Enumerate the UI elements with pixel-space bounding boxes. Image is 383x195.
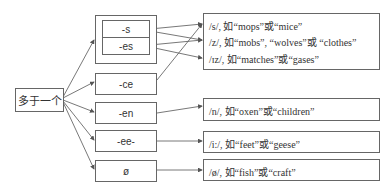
outcome-zero-box: /ø/, 如“fish”或“craft” (203, 159, 380, 181)
suffix-ee-node: -ee- (95, 130, 157, 152)
outcome-s-text: /s/, 如“mops”或“mice” (209, 18, 302, 33)
suffix-ce-node: -ce (95, 73, 157, 95)
suffix-es-label: -es (119, 41, 133, 52)
outcome-iz-text: /ɪz/, 如“matches”或“gases” (209, 51, 319, 66)
suffix-ce-label: -ce (119, 79, 133, 90)
suffix-zero-node: ø (95, 160, 157, 182)
outcome-zero-text: /ø/, 如“fish”或“craft” (209, 164, 296, 179)
outcome-n-text: /n/, 如“oxen”或“children” (209, 103, 315, 118)
suffix-ee-label: -ee- (117, 136, 135, 147)
suffix-zero-label: ø (123, 166, 129, 177)
suffix-s-node: -s (102, 20, 150, 38)
suffix-s-label: -s (122, 24, 130, 35)
suffix-en-label: -en (119, 108, 133, 119)
suffix-es-node: -es (102, 37, 150, 55)
outcome-n-box: /n/, 如“oxen”或“children” (203, 98, 380, 121)
root-label: 多于一个 (18, 92, 62, 108)
root-node: 多于一个 (15, 88, 64, 112)
outcome-i-text: /i:/, 如“feet”或“geese” (209, 136, 300, 151)
suffix-en-node: -en (95, 102, 157, 124)
outcome-i-box: /i:/, 如“feet”或“geese” (203, 131, 380, 153)
outcome-z-text: /z/, 如“mobs”, “wolves”或 “clothes” (209, 34, 356, 49)
outcome-sz-box: /s/, 如“mops”或“mice” /z/, 如“mobs”, “wolve… (203, 13, 380, 70)
